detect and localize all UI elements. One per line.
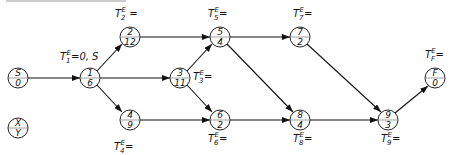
node-F: F 0	[425, 68, 445, 88]
label-t3: T3E=	[193, 69, 212, 85]
node-1-bottom: 6	[87, 78, 93, 88]
label-t2: T2E =	[115, 6, 138, 22]
node-4-top: 4	[127, 110, 133, 120]
edge-3-6	[187, 85, 212, 112]
label-t6: T6E=	[208, 131, 227, 147]
svg-text:T9E=: T9E=	[381, 131, 400, 147]
node-1-top: 1	[87, 68, 93, 78]
node-S-bottom: 0	[15, 78, 21, 88]
node-6-top: 6	[217, 110, 223, 120]
label-t1: T1E=0, S	[60, 49, 99, 65]
node-9-top: 9	[385, 110, 391, 120]
node-9: 9 3	[378, 110, 398, 130]
svg-text:T4E=: T4E=	[114, 139, 133, 155]
node-F-top: F	[432, 68, 438, 78]
node-6-bottom: 2	[217, 120, 223, 130]
svg-text:T7E=: T7E=	[293, 6, 312, 22]
svg-text:T5E=: T5E=	[208, 6, 227, 22]
node-S: S 0	[8, 68, 28, 88]
cut-off-caption	[6, 0, 126, 2]
node-3-top: 3	[177, 68, 183, 78]
node-2-top: 2	[127, 27, 133, 37]
edge-1-2	[97, 44, 122, 71]
node-4: 4 9	[120, 110, 140, 130]
node-1: 1 6	[80, 68, 100, 88]
svg-text:T8E=: T8E=	[293, 131, 312, 147]
svg-text:T2E =: T2E =	[115, 6, 138, 22]
node-6: 6 2	[210, 110, 230, 130]
legend-top: X	[14, 118, 22, 128]
node-8: 8 4	[290, 110, 310, 130]
edge-7-9	[307, 44, 381, 112]
node-7-bottom: 2	[297, 37, 303, 47]
node-2: 2 12	[120, 27, 140, 47]
node-5-top: 5	[217, 27, 223, 37]
node-8-top: 8	[297, 110, 303, 120]
node-2-bottom: 12	[124, 37, 136, 47]
node-F-bottom: 0	[432, 78, 438, 88]
node-8-bottom: 4	[297, 120, 303, 130]
node-5-bottom: 4	[217, 37, 223, 47]
network-diagram: S 0 1 6 2 12 3 11 4 9 5 4 6 2 7	[0, 0, 451, 155]
edge-5-8	[227, 44, 293, 112]
node-7-top: 7	[297, 27, 303, 37]
label-t5: T5E=	[208, 6, 227, 22]
svg-text:T3E=: T3E=	[193, 69, 212, 85]
label-tF: TFE=	[425, 47, 444, 63]
edge-9-F	[395, 86, 428, 113]
node-4-bottom: 9	[127, 120, 133, 130]
svg-text:TFE=: TFE=	[425, 47, 444, 63]
label-t4: T4E=	[114, 139, 133, 155]
node-9-bottom: 3	[385, 120, 391, 130]
svg-text:T1E=0, S: T1E=0, S	[60, 49, 99, 65]
label-t8: T8E=	[293, 131, 312, 147]
label-t7: T7E=	[293, 6, 312, 22]
node-5: 5 4	[210, 27, 230, 47]
edge-1-4	[97, 85, 122, 112]
node-3: 3 11	[170, 68, 190, 88]
node-7: 7 2	[290, 27, 310, 47]
node-3-bottom: 11	[174, 78, 185, 88]
svg-text:T6E=: T6E=	[208, 131, 227, 147]
label-t9: T9E=	[381, 131, 400, 147]
node-S-top: S	[15, 68, 21, 78]
edge-3-5	[187, 44, 212, 71]
legend-node: X Y	[8, 118, 28, 138]
